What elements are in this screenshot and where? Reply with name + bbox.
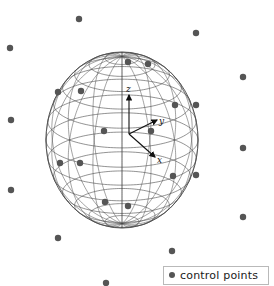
control-point bbox=[193, 102, 199, 108]
control-point bbox=[101, 128, 107, 134]
grid-line bbox=[122, 56, 151, 227]
control-point bbox=[55, 89, 61, 95]
control-point bbox=[145, 61, 151, 67]
z-axis-label: z bbox=[125, 84, 131, 94]
control-point bbox=[102, 199, 108, 205]
grid-line bbox=[122, 56, 192, 224]
control-points-sphere-figure: zyx control points bbox=[0, 0, 274, 286]
sphere-wireframe-layer: zyx bbox=[0, 0, 274, 286]
control-point bbox=[77, 160, 83, 166]
control-point bbox=[169, 248, 175, 254]
control-point bbox=[193, 30, 199, 36]
control-point bbox=[170, 173, 176, 179]
grid-line bbox=[122, 53, 151, 224]
control-point bbox=[172, 102, 178, 108]
control-point bbox=[148, 128, 154, 134]
control-point bbox=[125, 203, 131, 209]
control-point bbox=[7, 45, 13, 51]
grid-line bbox=[93, 53, 122, 224]
control-point bbox=[8, 117, 14, 123]
control-point bbox=[76, 16, 82, 22]
grid-line bbox=[52, 56, 122, 224]
grid-line bbox=[46, 56, 122, 223]
sphere-grid bbox=[46, 52, 198, 228]
grid-line bbox=[52, 56, 122, 224]
control-point bbox=[240, 145, 246, 151]
control-point bbox=[125, 59, 131, 65]
control-point bbox=[57, 160, 63, 166]
control-point bbox=[193, 172, 199, 178]
y-axis-label: y bbox=[158, 116, 165, 126]
control-point bbox=[78, 88, 84, 94]
control-point bbox=[240, 74, 246, 80]
legend-label: control points bbox=[180, 270, 258, 281]
control-point bbox=[55, 235, 61, 241]
grid-line bbox=[122, 56, 198, 223]
control-point bbox=[103, 280, 109, 286]
x-axis-label: x bbox=[157, 155, 162, 165]
control-point bbox=[8, 187, 14, 193]
legend: control points bbox=[163, 266, 269, 285]
legend-marker-icon bbox=[169, 272, 175, 278]
grid-line bbox=[122, 56, 192, 224]
control-point bbox=[240, 214, 246, 220]
